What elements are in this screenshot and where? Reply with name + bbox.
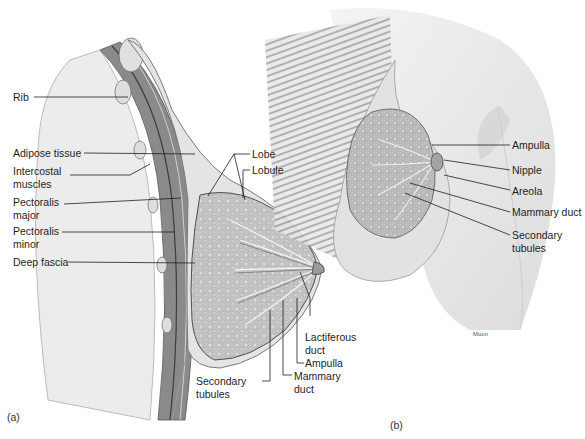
label-deep-fascia: Deep fascia bbox=[13, 256, 68, 269]
label-lobe: Lobe bbox=[252, 148, 275, 161]
label-ampulla-a: Ampulla bbox=[305, 357, 343, 370]
panel-label-a: (a) bbox=[7, 411, 20, 423]
label-mammary-duct-a: Mammary duct bbox=[294, 370, 341, 395]
label-pectoralis-major: Pectoralis major bbox=[13, 196, 59, 221]
label-pectoralis-minor: Pectoralis minor bbox=[13, 225, 59, 250]
label-secondary-tubules-b: Secondary tubules bbox=[512, 229, 562, 254]
artist-signature: Moon bbox=[473, 331, 488, 337]
label-secondary-tubules-a: Secondary tubules bbox=[196, 375, 246, 400]
label-intercostal-muscles: Intercostal muscles bbox=[13, 165, 61, 190]
panel-label-b: (b) bbox=[390, 419, 403, 431]
label-areola: Areola bbox=[512, 185, 542, 198]
label-lobule: Lobule bbox=[252, 164, 284, 177]
label-adipose-tissue: Adipose tissue bbox=[13, 147, 81, 160]
label-ampulla-b: Ampulla bbox=[512, 139, 550, 152]
label-nipple: Nipple bbox=[512, 164, 542, 177]
label-lactiferous-duct: Lactiferous duct bbox=[305, 331, 356, 356]
breast-anatomy-illustration bbox=[0, 0, 585, 439]
label-mammary-duct-b: Mammary duct bbox=[512, 206, 581, 219]
label-rib: Rib bbox=[13, 91, 29, 104]
